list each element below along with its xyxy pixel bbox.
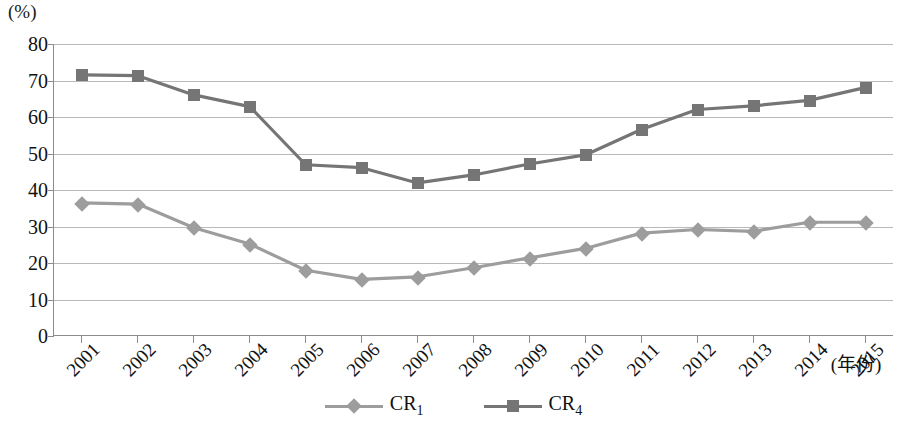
data-point-cr1 (298, 263, 314, 279)
y-axis-tick-label: 50 (4, 144, 48, 164)
y-axis-tick-label: 60 (4, 107, 48, 127)
x-axis-tick-label: 2006 (343, 339, 383, 379)
x-axis-tick-mark (249, 336, 250, 343)
x-axis-tick-label: 2004 (231, 339, 271, 379)
square-marker (507, 400, 519, 412)
chart-page: (%) 80706050403020100 200120022003200420… (0, 0, 907, 421)
x-axis-tick-mark (529, 336, 530, 343)
x-axis-tick-label: 2003 (175, 339, 215, 379)
data-point-cr1 (410, 270, 426, 286)
x-axis-tick-mark (361, 336, 362, 343)
y-axis-tick-label: 10 (4, 290, 48, 310)
y-axis-tick-label: 80 (4, 34, 48, 54)
x-axis-tick-mark (641, 336, 642, 343)
legend-swatch (484, 398, 542, 414)
data-point-cr1 (522, 251, 538, 267)
data-point-cr4 (860, 82, 872, 94)
data-point-cr1 (802, 215, 818, 231)
x-axis-tick-label: 2010 (567, 339, 607, 379)
data-point-cr1 (578, 241, 594, 257)
legend-swatch (325, 398, 383, 414)
data-point-cr1 (354, 272, 370, 288)
y-axis-tick-label: 30 (4, 217, 48, 237)
data-point-cr4 (244, 101, 256, 113)
x-axis-tick-label: 2011 (623, 340, 663, 380)
data-point-cr1 (634, 226, 650, 242)
data-point-cr1 (466, 261, 482, 277)
x-axis-tick-mark (193, 336, 194, 343)
chart-legend: CR1CR4 (0, 393, 907, 418)
data-point-cr4 (748, 100, 760, 112)
data-point-cr1 (242, 237, 258, 253)
data-point-cr4 (524, 158, 536, 170)
data-point-cr4 (300, 159, 312, 171)
x-axis-tick-label: 2013 (735, 339, 775, 379)
x-axis-title: (年份) (831, 355, 882, 374)
x-axis-tick-mark (417, 336, 418, 343)
data-point-cr4 (356, 162, 368, 174)
legend-item-cr1[interactable]: CR1 (325, 393, 424, 418)
x-axis-tick-mark (305, 336, 306, 343)
x-axis-tick-label: 2014 (791, 339, 831, 379)
data-point-cr1 (186, 221, 202, 237)
x-axis-tick-mark (753, 336, 754, 343)
data-point-cr1 (858, 215, 874, 231)
data-point-cr4 (580, 149, 592, 161)
x-axis-tick-mark (81, 336, 82, 343)
x-axis-tick-mark (473, 336, 474, 343)
x-axis-tick-label: 2008 (455, 339, 495, 379)
x-axis-tick-label: 2001 (63, 339, 103, 379)
legend-label: CR1 (390, 393, 424, 418)
data-point-cr1 (746, 224, 762, 240)
y-axis-tick-label: 70 (4, 71, 48, 91)
x-axis-tick-label: 2002 (119, 339, 159, 379)
data-point-cr1 (690, 222, 706, 238)
plot-area (53, 44, 893, 336)
y-axis-tick-label: 40 (4, 180, 48, 200)
legend-item-cr4[interactable]: CR4 (484, 393, 583, 418)
x-axis-tick-mark (809, 336, 810, 343)
x-axis-tick-mark (137, 336, 138, 343)
x-axis-tick-mark (697, 336, 698, 343)
data-point-cr4 (132, 70, 144, 82)
data-point-cr4 (188, 89, 200, 101)
x-axis-tick-label: 2009 (511, 339, 551, 379)
series-markers (54, 44, 893, 335)
x-axis-tick-label: 2007 (399, 339, 439, 379)
data-point-cr4 (412, 177, 424, 189)
data-point-cr1 (74, 196, 90, 212)
data-point-cr4 (692, 104, 704, 116)
data-point-cr4 (636, 124, 648, 136)
x-axis-tick-mark (585, 336, 586, 343)
legend-label: CR4 (549, 393, 583, 418)
y-axis-tick-label: 20 (4, 253, 48, 273)
diamond-marker (346, 398, 362, 414)
x-axis-tick-label: 2012 (679, 339, 719, 379)
y-axis-unit-label: (%) (8, 2, 36, 21)
x-axis-tick-mark (865, 336, 866, 343)
data-point-cr4 (468, 169, 480, 181)
x-axis-tick-label: 2005 (287, 339, 327, 379)
data-point-cr1 (130, 197, 146, 213)
x-axis-tick-labels: 2001200220032004200520062007200820092010… (53, 336, 893, 394)
data-point-cr4 (76, 69, 88, 81)
y-axis-tick-label: 0 (4, 326, 48, 346)
y-axis-tick-labels: 80706050403020100 (0, 44, 48, 336)
data-point-cr4 (804, 95, 816, 107)
